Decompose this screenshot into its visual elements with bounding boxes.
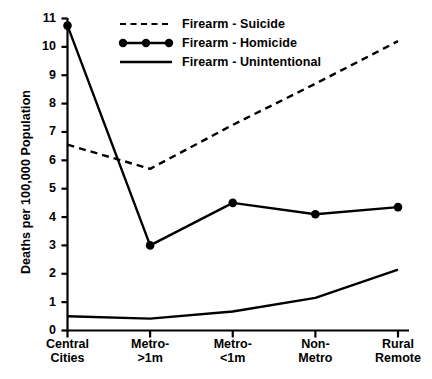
legend-item: Firearm - Suicide	[118, 14, 321, 33]
x-axis-tick-label: Metro-<1m	[190, 338, 276, 365]
legend-item: Firearm - Unintentional	[118, 52, 321, 71]
x-axis-tick-label: Non-Metro	[272, 338, 358, 365]
chart-legend: Firearm - Suicide Firearm - Homicide Fir…	[118, 14, 321, 71]
legend-label: Firearm - Unintentional	[182, 55, 321, 69]
legend-label: Firearm - Suicide	[182, 17, 285, 31]
legend-item: Firearm - Homicide	[118, 33, 321, 52]
chart-container: Deaths per 100,000 Population 0123456789…	[0, 0, 432, 379]
dashed-line-key	[118, 14, 174, 33]
series-marker	[394, 203, 403, 212]
series-marker	[146, 241, 155, 250]
dotted-marker-line-key	[118, 33, 174, 52]
series-line	[68, 270, 399, 319]
series-marker	[63, 21, 72, 30]
x-axis-tick-label: RuralRemote	[355, 338, 432, 365]
x-axis-tick-label: Metro->1m	[107, 338, 193, 365]
series-marker	[228, 199, 237, 208]
x-axis-tick-label: CentralCities	[25, 338, 111, 365]
solid-line-key	[118, 52, 174, 71]
legend-label: Firearm - Homicide	[182, 36, 297, 50]
series-marker	[311, 210, 320, 219]
